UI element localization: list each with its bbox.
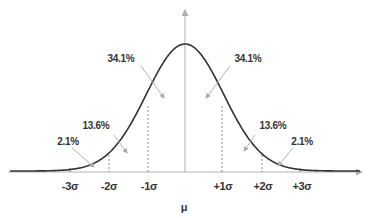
tick-label-minus-3-sigma: -3σ bbox=[62, 180, 78, 192]
arrow-left-outer bbox=[72, 148, 94, 167]
mean-label: μ bbox=[181, 201, 187, 213]
arrow-right-inner bbox=[206, 66, 230, 98]
label-right-outer-percent: 2.1% bbox=[291, 136, 313, 147]
arrow-left-inner bbox=[141, 66, 164, 98]
arrow-left-mid bbox=[114, 135, 127, 153]
tick-label-plus-2-sigma: +2σ bbox=[253, 180, 272, 192]
arrow-right-outer bbox=[278, 148, 293, 166]
tick-label-plus-3-sigma: +3σ bbox=[292, 180, 311, 192]
label-left-mid-percent: 13.6% bbox=[83, 120, 110, 131]
label-left-outer-percent: 2.1% bbox=[57, 136, 79, 147]
normal-distribution-diagram bbox=[0, 0, 370, 218]
label-left-inner-percent: 34.1% bbox=[108, 53, 135, 64]
tick-label-plus-1-sigma: +1σ bbox=[213, 180, 232, 192]
label-right-inner-percent: 34.1% bbox=[235, 53, 262, 64]
arrow-right-mid bbox=[244, 135, 255, 151]
tick-label-minus-1-sigma: -1σ bbox=[141, 180, 157, 192]
label-right-mid-percent: 13.6% bbox=[260, 120, 287, 131]
tick-label-minus-2-sigma: -2σ bbox=[101, 180, 117, 192]
